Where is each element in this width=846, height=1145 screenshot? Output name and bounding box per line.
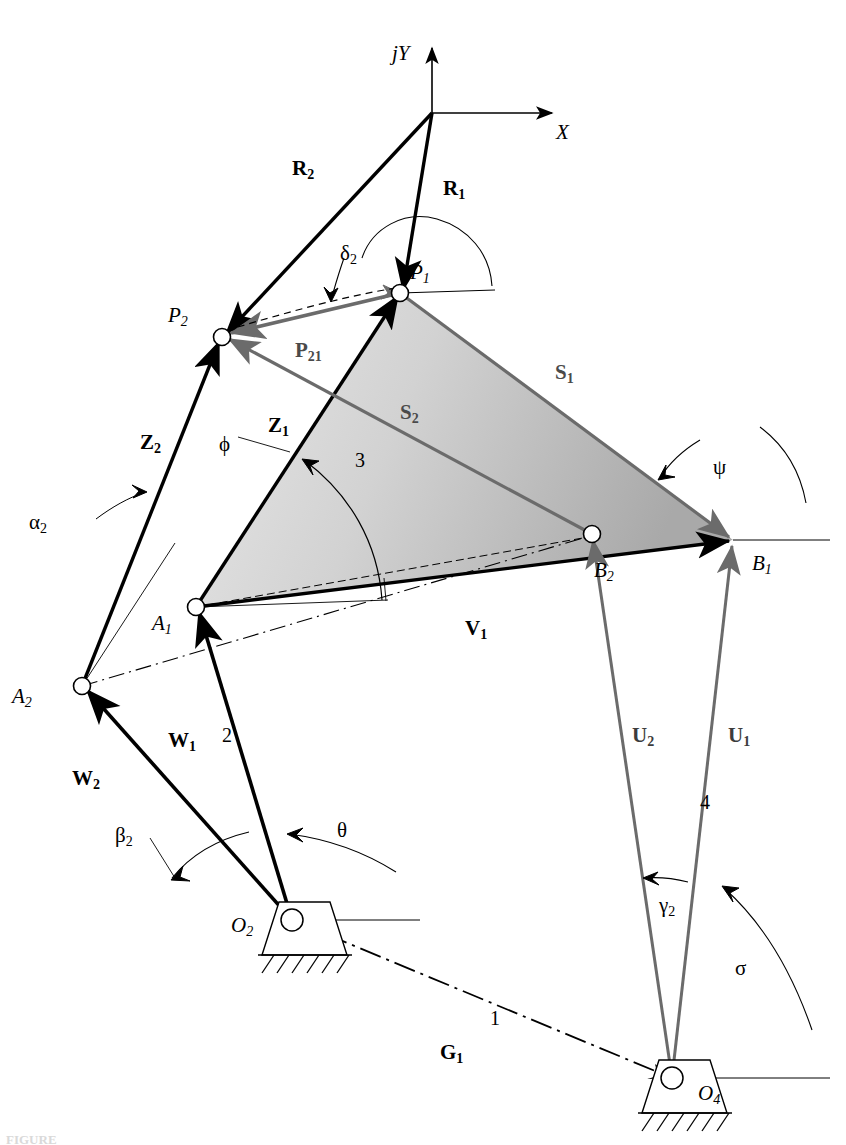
point-label-O2: O2 (231, 915, 253, 939)
angle-label-alpha2: α2 (29, 512, 47, 536)
angle-label-phi: ϕ (219, 434, 230, 455)
point-label-A2: A2 (12, 686, 32, 710)
coordinate-axes (432, 48, 552, 113)
axis-label-jY: jY (392, 43, 410, 64)
point-label-A1: A1 (152, 613, 172, 637)
vector-label-W2: W2 (72, 768, 100, 792)
linkage-diagram-svg (0, 0, 846, 1145)
point-label-O4: O4 (698, 1083, 720, 1107)
rocker-link-4 (593, 540, 732, 1078)
vector-label-U1: U1 (728, 725, 750, 749)
alpha2-reference (82, 485, 175, 686)
point-label-B1: B1 (752, 553, 772, 577)
vector-label-W1: W1 (168, 730, 196, 754)
vector-label-G1: G1 (440, 1042, 463, 1066)
axis-label-X: X (556, 122, 569, 143)
crank-link-2 (87, 612, 292, 920)
figure-caption: FIGURE (6, 1133, 57, 1145)
link-number-4: 4 (700, 792, 710, 812)
rotation-arc-delta2 (231, 258, 396, 329)
angle-label-beta2: β2 (115, 825, 133, 849)
angle-label-delta2: δ2 (340, 243, 357, 267)
vector-label-R2: R2 (292, 158, 314, 182)
vector-label-Z2: Z2 (140, 432, 161, 456)
vector-label-S1: S1 (555, 362, 574, 386)
vector-label-S2: S2 (400, 402, 419, 426)
point-label-B2: B2 (594, 560, 614, 584)
angle-label-sigma: σ (735, 958, 746, 979)
vector-label-V1: V1 (465, 618, 487, 642)
vector-label-U2: U2 (632, 725, 654, 749)
angle-arc-sigma (672, 886, 830, 1078)
angle-arc-gamma2 (643, 872, 688, 885)
angle-label-psi: ψ (713, 457, 726, 478)
vector-P21 (231, 285, 400, 333)
figure-canvas: jY X P1 P2 A1 A2 B1 B2 O2 O4 R1 R2 P21 Z… (0, 0, 846, 1145)
ground-link-G1 (292, 920, 672, 1079)
ground-pivot-O2 (258, 902, 352, 973)
angle-label-gamma2: γ2 (659, 895, 675, 919)
vector-label-R1: R1 (443, 178, 465, 202)
point-label-P1: P1 (410, 262, 430, 286)
point-label-P2: P2 (168, 305, 188, 329)
link-number-2: 2 (222, 725, 232, 745)
link-number-3: 3 (355, 450, 365, 470)
vector-label-P21: P21 (295, 340, 322, 364)
link-number-1: 1 (490, 1008, 500, 1028)
vector-label-Z1: Z1 (268, 415, 289, 439)
angle-label-theta: θ (337, 820, 347, 841)
